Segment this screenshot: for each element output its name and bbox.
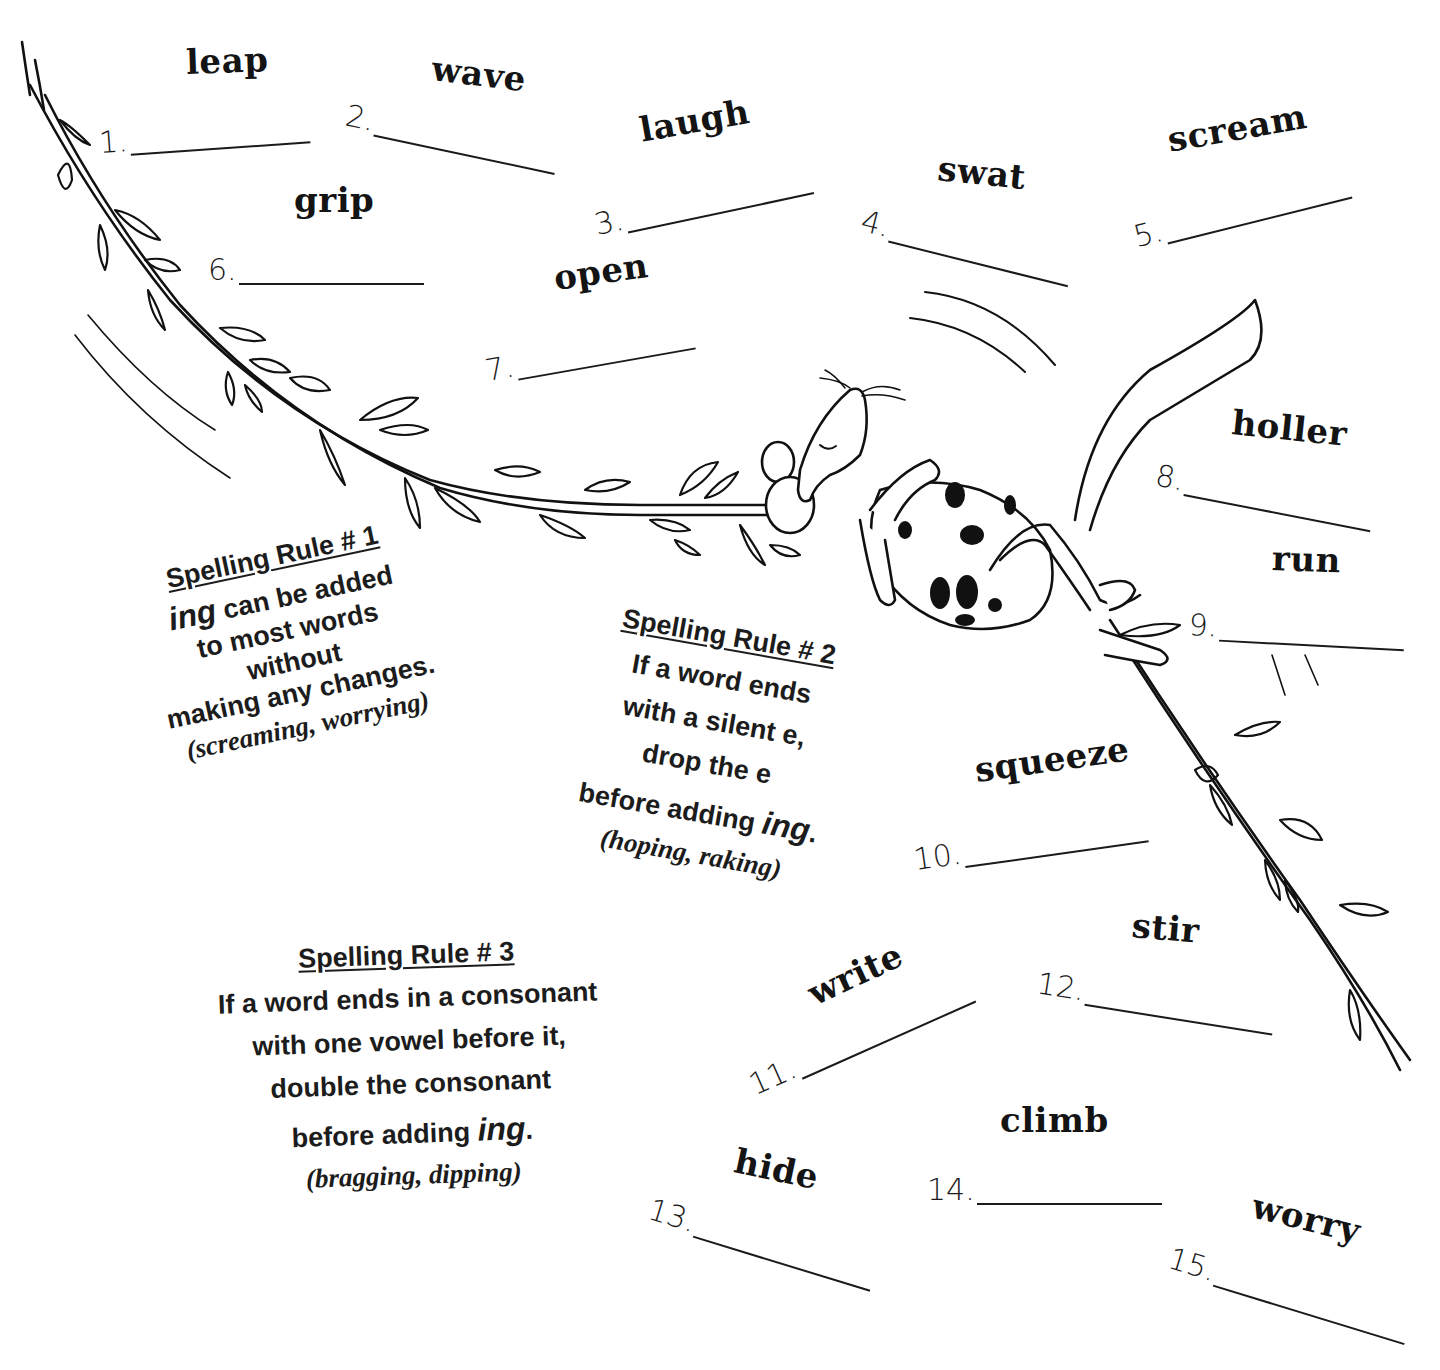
- item-number: 11.: [745, 1053, 801, 1100]
- answer-input-9[interactable]: [1219, 622, 1405, 652]
- word-laugh: laugh: [637, 91, 753, 150]
- answer-blank-3: 3.: [592, 165, 814, 240]
- answer-blank-5: 5.: [1131, 170, 1352, 252]
- word-write: write: [802, 935, 909, 1013]
- answer-blank-8: 8.: [1153, 461, 1375, 533]
- answer-input-8[interactable]: [1183, 476, 1373, 532]
- answer-blank-1: 1.: [98, 113, 310, 158]
- answer-blank-2: 2.: [343, 101, 560, 175]
- word-open: open: [551, 245, 650, 298]
- answer-blank-12: 12.: [1035, 968, 1276, 1035]
- answer-input-1[interactable]: [129, 123, 310, 156]
- item-number: 15.: [1165, 1243, 1219, 1286]
- item-number: 14.: [927, 1175, 975, 1205]
- word-grip: grip: [294, 180, 374, 220]
- answer-input-2[interactable]: [373, 117, 558, 175]
- word-wave: wave: [430, 48, 529, 99]
- answer-input-3[interactable]: [624, 175, 814, 234]
- item-number: 10.: [912, 839, 963, 875]
- word-run: run: [1271, 538, 1341, 580]
- answer-blank-15: 15.: [1165, 1243, 1413, 1345]
- answer-blank-9: 9.: [1188, 610, 1405, 651]
- word-stir: stir: [1130, 905, 1201, 951]
- item-number: 7.: [483, 351, 516, 386]
- spelling-rule-3: Spelling Rule # 3 If a word ends in a co…: [176, 932, 644, 1199]
- item-number: 6.: [208, 255, 237, 285]
- word-worry: worry: [1248, 1186, 1364, 1251]
- answer-input-12[interactable]: [1084, 986, 1275, 1035]
- answer-input-15[interactable]: [1213, 1267, 1410, 1345]
- item-number: 1.: [98, 126, 129, 158]
- answer-blank-6: 6.: [208, 255, 424, 285]
- item-number: 13.: [645, 1194, 699, 1237]
- worksheet-page: leap wave laugh swat scream grip open ho…: [0, 0, 1440, 1370]
- spelling-rule-2: Spelling Rule # 2 If a word ends with a …: [536, 595, 885, 896]
- item-number: 12.: [1035, 968, 1087, 1005]
- answer-input-7[interactable]: [515, 330, 696, 381]
- word-leap: leap: [185, 39, 269, 82]
- answer-input-14[interactable]: [977, 1185, 1162, 1205]
- answer-input-4[interactable]: [888, 223, 1072, 287]
- answer-blank-4: 4.: [858, 206, 1074, 287]
- item-number: 9.: [1188, 610, 1218, 641]
- word-swat: swat: [936, 148, 1028, 197]
- word-scream: scream: [1165, 96, 1310, 160]
- answer-blank-14: 14.: [927, 1175, 1162, 1205]
- answer-input-6[interactable]: [239, 265, 424, 285]
- word-hide: hide: [731, 1140, 823, 1197]
- rule-body: If a word ends in a consonant with one v…: [177, 969, 643, 1166]
- word-squeeze: squeeze: [972, 729, 1131, 790]
- answer-blank-11: 11.: [745, 975, 976, 1100]
- answer-input-13[interactable]: [693, 1218, 876, 1291]
- answer-blank-10: 10.: [912, 813, 1149, 875]
- answer-blank-7: 7.: [483, 320, 696, 386]
- word-holler: holler: [1230, 402, 1349, 454]
- item-number: 5.: [1131, 216, 1166, 252]
- answer-input-5[interactable]: [1163, 179, 1352, 244]
- word-climb: climb: [1000, 1100, 1109, 1140]
- item-number: 3.: [592, 205, 626, 240]
- item-number: 8.: [1153, 461, 1187, 496]
- answer-blank-13: 13.: [645, 1194, 878, 1291]
- item-number: 4.: [858, 206, 893, 242]
- item-number: 2.: [343, 101, 377, 136]
- spelling-rule-1: Spelling Rule # 1 ing can be added to mo…: [103, 507, 478, 777]
- motion-lines-icon: [22, 42, 30, 95]
- answer-input-10[interactable]: [962, 823, 1148, 869]
